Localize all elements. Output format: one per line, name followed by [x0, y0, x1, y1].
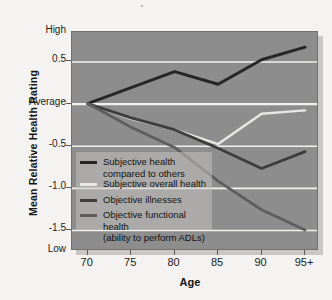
- y-tick-mark: [66, 187, 71, 188]
- x-axis-title: Age: [60, 276, 320, 288]
- y-tick-label-group: High0.5Average-0.5-1.0-1.5Low: [18, 0, 66, 300]
- y-tick-label: -1.0: [20, 180, 66, 191]
- legend-label: Subjective overall health: [103, 178, 206, 190]
- x-tick-mark: [130, 250, 131, 255]
- legend-label: Subjective health compared to others: [103, 156, 185, 179]
- legend-swatch-icon: [80, 199, 97, 202]
- legend-swatch-icon: [80, 183, 97, 186]
- x-tick-label: 95+: [284, 256, 324, 268]
- legend-label: Objective illnesses: [103, 194, 182, 206]
- chart-legend: Subjective health compared to othersSubj…: [76, 152, 212, 230]
- legend-item-3: Objective functional health (ability to …: [80, 209, 212, 244]
- series-line-0: [88, 47, 305, 103]
- x-tick-mark: [217, 250, 218, 255]
- legend-swatch-icon: [80, 161, 97, 164]
- x-tick-label: 90: [241, 256, 281, 268]
- y-tick-mark: [66, 229, 71, 230]
- chart-figure: Mean Relative Health Rating High0.5Avera…: [0, 0, 332, 300]
- legend-item-1: Subjective overall health: [80, 178, 206, 190]
- y-tick-mark: [66, 145, 71, 146]
- x-tick-mark: [261, 250, 262, 255]
- x-tick-mark: [174, 250, 175, 255]
- y-tick-mark: [66, 103, 71, 104]
- y-tick-label: 0.5: [20, 53, 66, 64]
- legend-item-0: Subjective health compared to others: [80, 156, 185, 179]
- y-tick-label: Low: [20, 243, 66, 254]
- y-tick-mark: [66, 60, 71, 61]
- x-tick-mark: [304, 250, 305, 255]
- y-tick-label: -1.5: [20, 222, 66, 233]
- y-tick-label: High: [20, 24, 66, 35]
- x-tick-label: 75: [110, 256, 150, 268]
- legend-swatch-icon: [80, 214, 97, 217]
- x-tick-label: 70: [67, 256, 107, 268]
- x-tick-mark: [87, 250, 88, 255]
- y-tick-label: Average: [20, 96, 66, 107]
- legend-item-2: Objective illnesses: [80, 194, 182, 206]
- legend-label: Objective functional health (ability to …: [103, 209, 212, 244]
- x-tick-label: 85: [197, 256, 237, 268]
- artifact-speck: [141, 5, 143, 7]
- y-tick-label: -0.5: [20, 138, 66, 149]
- x-tick-label: 80: [154, 256, 194, 268]
